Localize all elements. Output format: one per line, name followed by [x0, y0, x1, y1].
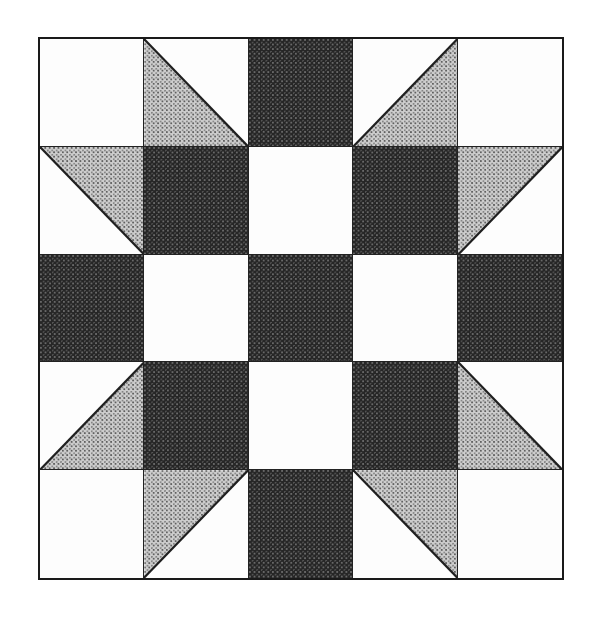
patch-fill-dark — [40, 255, 144, 363]
patch-fill-white — [249, 362, 353, 470]
quilt-patch-r4-c4 — [353, 362, 457, 470]
quilt-patch-r3-c5 — [458, 255, 562, 363]
quilt-patch-r1-c2 — [144, 39, 248, 147]
patch-fill-dark — [249, 39, 353, 147]
quilt-patch-r1-c5 — [458, 39, 562, 147]
quilt-patch-r1-c1 — [40, 39, 144, 147]
quilt-patch-r3-c3 — [249, 255, 353, 363]
quilt-patch-r5-c4 — [353, 470, 457, 578]
quilt-patch-r2-c1 — [40, 147, 144, 255]
quilt-patch-r2-c4 — [353, 147, 457, 255]
quilt-patch-r1-c4 — [353, 39, 457, 147]
quilt-patch-r2-c3 — [249, 147, 353, 255]
patch-fill-dark — [144, 362, 248, 470]
patch-fill-dark — [144, 147, 248, 255]
quilt-patch-r4-c3 — [249, 362, 353, 470]
patch-fill-white — [353, 255, 457, 363]
quilt-patch-r5-c1 — [40, 470, 144, 578]
patch-fill-white — [144, 255, 248, 363]
quilt-patch-r4-c2 — [144, 362, 248, 470]
quilt-patch-r1-c3 — [249, 39, 353, 147]
patch-fill-white — [458, 470, 562, 578]
patch-fill-white — [40, 470, 144, 578]
patch-fill-white — [40, 39, 144, 147]
quilt-patch-r2-c2 — [144, 147, 248, 255]
page-canvas — [0, 0, 598, 625]
quilt-patch-r5-c5 — [458, 470, 562, 578]
patch-fill-dark — [458, 255, 562, 363]
quilt-patch-r3-c2 — [144, 255, 248, 363]
quilt-block-grid — [38, 37, 564, 580]
quilt-patch-r4-c1 — [40, 362, 144, 470]
patch-fill-dark — [249, 470, 353, 578]
patch-fill-white — [458, 39, 562, 147]
patch-fill-white — [249, 147, 353, 255]
patch-fill-dark — [353, 147, 457, 255]
quilt-patch-r3-c1 — [40, 255, 144, 363]
quilt-patch-r2-c5 — [458, 147, 562, 255]
patch-fill-dark — [249, 255, 353, 363]
quilt-patch-r3-c4 — [353, 255, 457, 363]
quilt-patch-r4-c5 — [458, 362, 562, 470]
patch-fill-dark — [353, 362, 457, 470]
quilt-patch-r5-c3 — [249, 470, 353, 578]
quilt-patch-r5-c2 — [144, 470, 248, 578]
